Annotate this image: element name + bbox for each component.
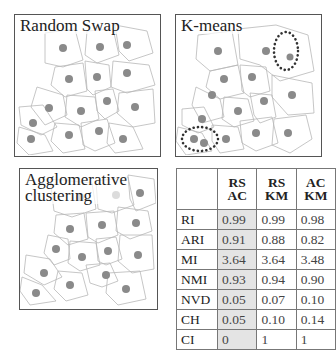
metric-label: NVD	[177, 290, 218, 310]
table-header-row: RSAC RSKM ACKM	[177, 169, 336, 210]
kmeans-error-highlight-top	[274, 32, 298, 70]
metric-value: 0.90	[296, 270, 335, 290]
metric-value: 0.05	[218, 310, 257, 330]
metric-value: 1	[257, 330, 296, 350]
metric-value: 0.94	[257, 270, 296, 290]
metric-value: 0.99	[218, 210, 257, 230]
table-row: RI 0.99 0.99 0.98	[177, 210, 336, 230]
header-corner	[177, 169, 218, 210]
metric-label: MI	[177, 250, 218, 270]
metric-label: ARI	[177, 230, 218, 250]
metric-value: 0.82	[296, 230, 335, 250]
agglomerative-panel: Agglomerative clustering	[19, 168, 158, 310]
table-row: MI 3.64 3.64 3.48	[177, 250, 336, 270]
random-swap-title: Random Swap	[20, 18, 120, 34]
header-rs-ac: RSAC	[218, 169, 257, 210]
metric-label: CI	[177, 330, 218, 350]
metric-label: RI	[177, 210, 218, 230]
metric-value: 0	[218, 330, 257, 350]
header-rs-km: RSKM	[257, 169, 296, 210]
metric-value: 0.05	[218, 290, 257, 310]
agglomerative-title-line2: clustering	[25, 186, 92, 205]
metric-value: 0.88	[257, 230, 296, 250]
header-ac-km: ACKM	[296, 169, 335, 210]
metric-label: NMI	[177, 270, 218, 290]
kmeans-error-highlight-bottom	[182, 127, 218, 151]
metric-value: 0.10	[257, 310, 296, 330]
table-row: NVD 0.05 0.07 0.10	[177, 290, 336, 310]
metric-label: CH	[177, 310, 218, 330]
metric-value: 0.10	[296, 290, 335, 310]
random-swap-voronoi-plot	[15, 15, 159, 155]
metric-value: 0.91	[218, 230, 257, 250]
agglomerative-title: Agglomerative clustering	[25, 172, 127, 204]
metric-value: 0.14	[296, 310, 335, 330]
table-row: NMI 0.93 0.94 0.90	[177, 270, 336, 290]
table-row: ARI 0.91 0.88 0.82	[177, 230, 336, 250]
clustering-comparison-table: RSAC RSKM ACKM RI 0.99 0.99 0.98 ARI 0.9…	[176, 168, 336, 350]
metric-value: 3.48	[296, 250, 335, 270]
random-swap-panel: Random Swap	[14, 14, 161, 157]
kmeans-title: K-means	[181, 18, 242, 34]
kmeans-voronoi-plot	[176, 15, 320, 155]
metric-value: 0.07	[257, 290, 296, 310]
kmeans-panel: K-means	[175, 14, 322, 157]
metric-value: 3.64	[218, 250, 257, 270]
metric-value: 0.93	[218, 270, 257, 290]
table-row: CI 0 1 1	[177, 330, 336, 350]
metric-value: 0.99	[257, 210, 296, 230]
table-row: CH 0.05 0.10 0.14	[177, 310, 336, 330]
metric-value: 3.64	[257, 250, 296, 270]
metric-value: 1	[296, 330, 335, 350]
metric-value: 0.98	[296, 210, 335, 230]
